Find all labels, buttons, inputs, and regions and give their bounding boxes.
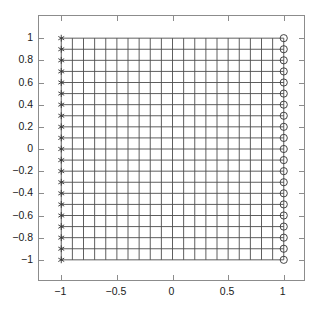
y-axis-tick [39, 127, 44, 128]
x-axis-tick-label: 0.5 [220, 286, 235, 297]
y-axis-tick [299, 38, 304, 39]
y-axis-tick [299, 60, 304, 61]
y-axis-tick [299, 83, 304, 84]
y-axis-tick [39, 60, 44, 61]
x-axis-tick [228, 275, 229, 280]
x-axis-tick [173, 275, 174, 280]
y-axis-tick [39, 216, 44, 217]
y-axis-tick-label: 0 [27, 143, 33, 154]
y-axis-tick [39, 238, 44, 239]
x-axis-tick [228, 16, 229, 21]
x-axis-tick-label: −1 [54, 286, 66, 297]
plot-area [39, 16, 304, 280]
y-axis-tick [39, 260, 44, 261]
x-axis-tick [117, 16, 118, 21]
y-axis-tick [299, 260, 304, 261]
y-axis-tick [39, 105, 44, 106]
x-axis-tick [284, 16, 285, 21]
x-axis-tick-label: 1 [280, 286, 286, 297]
y-axis-tick-labels: 10.80.60.40.20−0.2−0.4−0.6−0.8−1 [0, 15, 33, 281]
x-axis-tick [173, 16, 174, 21]
x-axis-tick [117, 275, 118, 280]
y-axis-tick [39, 193, 44, 194]
y-axis-tick [299, 105, 304, 106]
y-axis-tick-label: 0.6 [18, 76, 33, 87]
figure-canvas: 10.80.60.40.20−0.2−0.4−0.6−0.8−1 −1−0.50… [0, 0, 316, 315]
y-axis-tick [299, 193, 304, 194]
y-axis-tick [299, 171, 304, 172]
x-axis-tick [61, 16, 62, 21]
y-axis-tick-label: 0.4 [18, 98, 33, 109]
x-axis-tick-labels: −1−0.500.51 [38, 286, 305, 300]
y-axis-tick [39, 83, 44, 84]
y-axis-tick-label: 0.8 [18, 54, 33, 65]
x-axis-tick-label: 0 [169, 286, 175, 297]
x-axis-tick-label: −0.5 [106, 286, 127, 297]
y-axis-tick [299, 238, 304, 239]
y-axis-tick [39, 149, 44, 150]
y-axis-tick-label: 1 [27, 32, 33, 43]
y-axis-tick-label: −0.2 [12, 165, 33, 176]
y-axis-tick-label: −0.4 [12, 187, 33, 198]
plot-axes-frame [38, 15, 305, 281]
y-axis-tick-label: 0.2 [18, 121, 33, 132]
y-axis-tick [299, 127, 304, 128]
x-axis-tick [61, 275, 62, 280]
y-axis-tick-label: −0.6 [12, 209, 33, 220]
y-axis-tick [299, 216, 304, 217]
mesh-grid-svg [39, 16, 306, 282]
y-axis-tick-label: −0.8 [12, 231, 33, 242]
y-axis-tick [299, 149, 304, 150]
y-axis-tick-label: −1 [21, 254, 33, 265]
y-axis-tick [39, 171, 44, 172]
x-axis-tick [284, 275, 285, 280]
y-axis-tick [39, 38, 44, 39]
